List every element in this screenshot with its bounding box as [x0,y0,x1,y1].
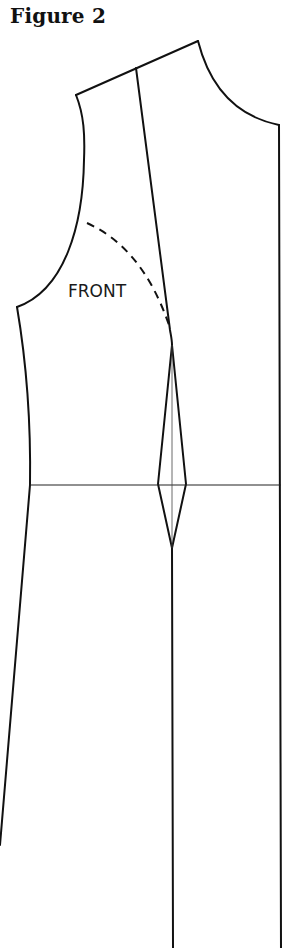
lower-center-line [172,548,173,948]
side-seam-lower [0,485,30,845]
piece-label-front: FRONT [68,281,127,301]
center-front-line [279,125,281,948]
neckline-curve [198,41,279,125]
guide-line [136,68,172,345]
side-seam-upper [17,307,30,485]
pattern-diagram: FRONT [0,0,293,948]
armhole-curve [17,95,84,307]
